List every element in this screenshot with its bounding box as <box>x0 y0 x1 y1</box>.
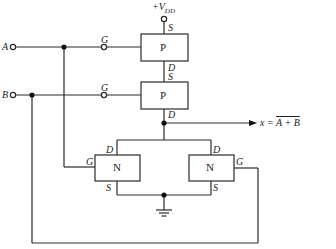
n2-source-label: S <box>213 183 218 193</box>
junction-ground <box>161 192 166 197</box>
junction-b <box>29 92 34 97</box>
p1-source-label: S <box>168 23 173 33</box>
n1-label: N <box>113 162 121 173</box>
output-arrow-icon <box>249 120 257 126</box>
p1-gate-label: G <box>101 35 108 45</box>
gate-p2-terminal <box>101 92 106 97</box>
vdd-label: +VDD <box>152 2 175 15</box>
vdd-terminal <box>161 16 166 21</box>
n2-drain-label: D <box>213 145 220 155</box>
input-a-terminal <box>10 44 15 49</box>
p2-label: P <box>160 90 166 101</box>
n2-gate-label: G <box>236 157 243 167</box>
junction-a <box>61 44 66 49</box>
n1-gate-label: G <box>86 157 93 167</box>
vdd-text: +V <box>152 1 165 12</box>
p2-gate-label: G <box>101 83 108 93</box>
junction-output <box>161 120 166 125</box>
p2-drain-label: D <box>168 110 175 120</box>
n1-source-label: S <box>106 183 111 193</box>
input-b-terminal <box>10 92 15 97</box>
n1-drain-label: D <box>106 145 113 155</box>
p2-source-label: S <box>168 72 173 82</box>
p1-label: P <box>160 42 166 53</box>
output-label: x = A + B <box>260 118 300 128</box>
vdd-subscript: DD <box>165 7 175 15</box>
output-expression: A + B <box>276 117 300 128</box>
input-a-label: A <box>2 42 8 52</box>
input-b-label: B <box>2 90 8 100</box>
output-prefix: x = <box>260 117 276 128</box>
n2-label: N <box>206 162 214 173</box>
gate-p1-terminal <box>101 44 106 49</box>
